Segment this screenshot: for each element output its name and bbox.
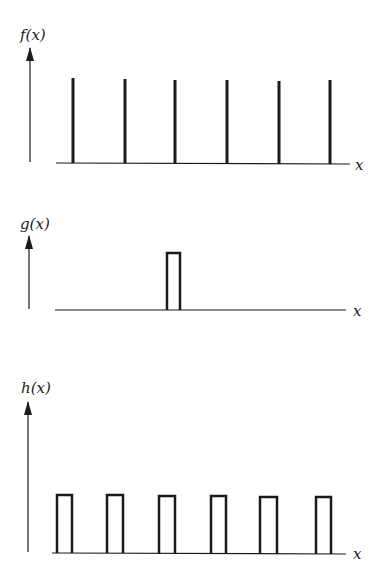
panel-g: g(x) x <box>20 215 362 320</box>
h-x-axis <box>52 553 346 554</box>
f-x-axis <box>56 163 350 164</box>
h-pulses <box>57 495 331 554</box>
g-axis-label: g(x) <box>20 215 50 233</box>
panel-f: f(x) x <box>19 26 364 174</box>
f-x-label: x <box>355 156 364 174</box>
rect-pulse <box>211 496 226 554</box>
convolution-diagram: f(x) x g(x) x h(x) x <box>0 0 380 583</box>
rect-pulse <box>57 495 72 553</box>
g-x-label: x <box>353 302 362 320</box>
h-axis-label: h(x) <box>21 379 51 397</box>
h-x-label: x <box>353 545 362 563</box>
panel-h: h(x) x <box>21 379 362 563</box>
g-arrowhead-icon <box>25 235 33 249</box>
rect-pulse <box>107 495 123 553</box>
h-arrowhead-icon <box>24 401 32 415</box>
rect-pulse <box>159 496 175 554</box>
f-arrowhead-icon <box>26 47 34 61</box>
rect-pulse <box>316 497 331 554</box>
rect-pulse <box>260 497 277 554</box>
f-axis-label: f(x) <box>19 26 46 44</box>
g-rect-pulse <box>167 253 180 310</box>
f-impulses <box>73 78 330 164</box>
